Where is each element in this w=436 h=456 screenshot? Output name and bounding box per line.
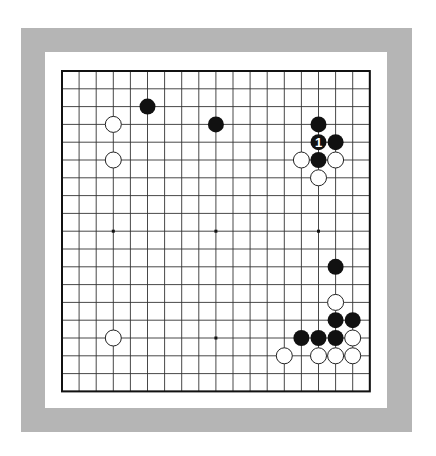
black-stone: 1: [311, 134, 327, 150]
black-stone: [328, 259, 344, 275]
black-stone: [328, 330, 344, 346]
white-stone: [328, 348, 344, 364]
black-stone: [328, 134, 344, 150]
black-stone: [311, 116, 327, 132]
white-stone: [328, 294, 344, 310]
white-stone: [105, 330, 121, 346]
black-stone: [140, 99, 156, 115]
white-stone: [105, 152, 121, 168]
white-stone: [311, 348, 327, 364]
black-stone: [345, 312, 361, 328]
white-stone: [105, 116, 121, 132]
star-point: [112, 230, 115, 233]
black-stone: [208, 116, 224, 132]
star-point: [317, 230, 320, 233]
star-point: [214, 230, 217, 233]
white-stone: [345, 330, 361, 346]
black-stone: [311, 152, 327, 168]
black-stone: [311, 330, 327, 346]
white-stone: [293, 152, 309, 168]
star-point: [214, 337, 217, 340]
white-stone: [328, 152, 344, 168]
white-stone: [276, 348, 292, 364]
white-stone: [311, 170, 327, 186]
move-number-label: 1: [315, 135, 322, 150]
white-stone: [345, 348, 361, 364]
go-board[interactable]: 1: [0, 0, 436, 456]
black-stone: [328, 312, 344, 328]
black-stone: [293, 330, 309, 346]
